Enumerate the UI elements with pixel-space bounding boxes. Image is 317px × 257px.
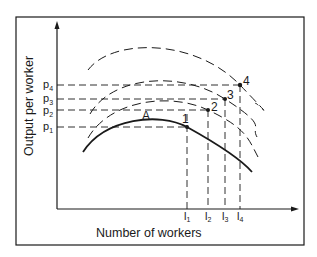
x-axis-arrow-icon xyxy=(291,207,299,212)
y-tick-p2: p2 xyxy=(43,104,53,118)
figure-frame xyxy=(16,17,304,245)
x-axis-label: Number of workers xyxy=(96,226,202,240)
y-axis-arrow-icon xyxy=(55,21,60,29)
y-axis-label: Output per worker xyxy=(22,56,36,156)
output-per-worker-diagram: 1 2 3 4 A p4 p3 p2 p1 l1 l2 l3 l4 Number… xyxy=(0,0,317,257)
y-tick-p4: p4 xyxy=(43,78,53,92)
x-tick-l4: l4 xyxy=(237,210,243,223)
point-label-3: 3 xyxy=(227,88,234,102)
y-tick-p1: p1 xyxy=(43,120,53,134)
point-label-2: 2 xyxy=(211,100,218,114)
y-tick-labels: p4 p3 p2 p1 xyxy=(43,78,53,134)
x-tick-l3: l3 xyxy=(222,210,228,223)
curve-2-dashed xyxy=(88,101,258,157)
point-4 xyxy=(238,83,242,87)
point-2 xyxy=(206,108,210,112)
x-tick-l1: l1 xyxy=(184,210,190,223)
point-label-1: 1 xyxy=(182,112,189,126)
x-tick-labels: l1 l2 l3 l4 xyxy=(184,210,243,223)
x-tick-l2: l2 xyxy=(205,210,211,223)
curve-label-a: A xyxy=(142,109,150,123)
point-label-4: 4 xyxy=(243,74,250,88)
axes xyxy=(55,21,300,212)
